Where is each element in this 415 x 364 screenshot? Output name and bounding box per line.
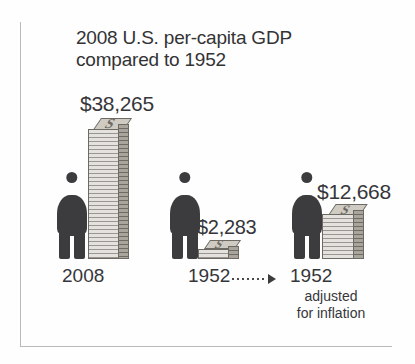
infographic-page: 2008 U.S. per-capita GDP compared to 195…	[0, 0, 415, 364]
person-leg-right	[309, 229, 320, 259]
person-head	[66, 172, 77, 183]
arrow-dot	[262, 278, 264, 280]
person-figure-1952	[170, 172, 200, 259]
value-label-1952-adjusted: $12,668	[317, 180, 391, 204]
person-leg-left	[294, 229, 305, 259]
chart-title-line-2: compared to 1952	[76, 49, 366, 71]
money-stack-1952: S	[198, 240, 242, 259]
sub-label-line-1: adjusted	[283, 288, 379, 305]
person-leg-left	[59, 229, 70, 259]
arrow-dot	[257, 278, 259, 280]
chart-title-line-1: 2008 U.S. per-capita GDP	[76, 27, 366, 49]
money-stack-1952-adjusted: S	[322, 204, 368, 259]
arrow-dot	[237, 278, 239, 280]
sub-label-line-2: for inflation	[283, 305, 379, 322]
person-figure-1952-adjusted	[292, 172, 322, 259]
axis-label-1952-adjusted: 1952	[290, 265, 332, 287]
money-stack-side-face	[353, 210, 364, 259]
chart-title: 2008 U.S. per-capita GDP compared to 195…	[76, 27, 366, 72]
money-stack-front-face	[322, 214, 354, 259]
value-label-1952: $2,283	[197, 216, 256, 239]
arrow-dot	[232, 278, 234, 280]
person-leg-right	[187, 229, 198, 259]
person-head	[179, 172, 190, 183]
axis-label-2008: 2008	[62, 265, 104, 287]
dotted-arrow-annotation	[232, 274, 276, 284]
arrow-dot	[247, 278, 249, 280]
money-stack-side-face	[118, 124, 129, 259]
money-stack-2008: S	[88, 118, 132, 259]
money-stack-front-face	[198, 249, 229, 259]
axis-label-1952: 1952	[188, 265, 230, 287]
sub-label-1952-adjusted: adjusted for inflation	[283, 288, 379, 322]
arrow-dot	[252, 278, 254, 280]
money-stack-side-face	[228, 246, 239, 259]
money-stack-front-face	[88, 129, 119, 259]
page-rule-bottom	[20, 346, 392, 347]
value-label-2008: $38,265	[80, 92, 154, 116]
page-rule-left	[20, 22, 21, 347]
person-leg-left	[172, 229, 183, 259]
arrow-dot	[242, 278, 244, 280]
arrow-head-icon	[268, 274, 276, 284]
person-figure-2008	[57, 172, 87, 259]
person-leg-right	[74, 229, 85, 259]
person-head	[301, 172, 312, 183]
